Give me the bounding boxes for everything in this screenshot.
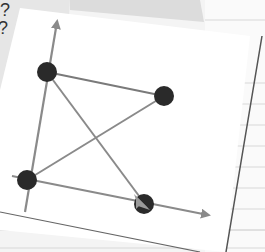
note-question-marks: ?: [0, 0, 10, 20]
node-top-left: [37, 62, 57, 82]
note-question-marks-2: ?: [0, 18, 8, 38]
node-bottom-left: [17, 170, 37, 190]
node-right: [154, 86, 174, 106]
paper-sheet: [0, 8, 250, 252]
diagram-scene: ? ?: [0, 0, 265, 252]
